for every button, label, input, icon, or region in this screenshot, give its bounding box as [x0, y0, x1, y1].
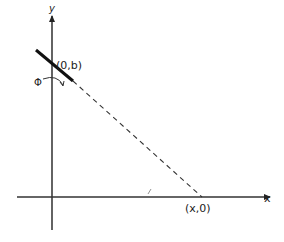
coordinate-diagram: y x (0,b) (x,0) Φ — [0, 0, 284, 242]
angle-arc — [43, 77, 63, 85]
x-axis-label: x — [264, 192, 271, 205]
y-axis-label: y — [48, 3, 56, 14]
angle-label: Φ — [34, 77, 42, 88]
tick-mark — [148, 189, 151, 194]
y-intercept-label: (0,b) — [56, 59, 82, 72]
x-intercept-label: (x,0) — [185, 202, 211, 215]
dashed-segment — [73, 81, 202, 197]
